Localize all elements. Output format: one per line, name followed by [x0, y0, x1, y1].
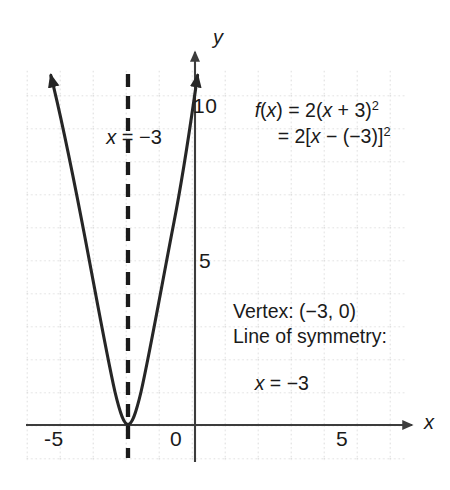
- function-formula-line-2: = 2[x − (−3)]2: [256, 103, 391, 170]
- x-tick-label-0: 0: [170, 427, 182, 451]
- line-of-symmetry-value: x = −3: [233, 350, 309, 417]
- vertex-annotation: Vertex: (−3, 0): [233, 300, 356, 322]
- x-tick-label-neg5: -5: [44, 427, 64, 451]
- x-tick-label-5: 5: [336, 427, 348, 451]
- x-axis-name: x: [424, 411, 434, 434]
- symmetry-line-label: x = −3: [84, 103, 162, 172]
- graph-figure: x = −3 f(x) = 2(x + 3)2 = 2[x − (−3)]2 V…: [0, 0, 450, 490]
- line-of-symmetry-annotation: Line of symmetry:: [233, 325, 387, 347]
- y-tick-label-5: 5: [199, 249, 211, 273]
- y-axis-name: y: [213, 26, 223, 49]
- coordinate-plane: [0, 0, 450, 490]
- y-tick-label-10: 10: [193, 94, 217, 118]
